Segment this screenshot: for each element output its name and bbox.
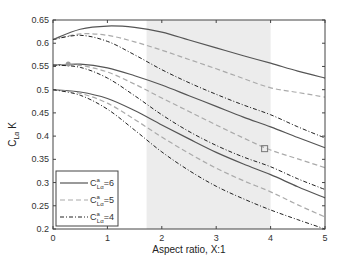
x-tick-label: 2 xyxy=(159,233,164,243)
y-axis-label: CLα K xyxy=(7,122,20,147)
x-tick-label: 0 xyxy=(50,233,55,243)
x-axis-label: Aspect ratio, X:1 xyxy=(152,244,226,255)
x-tick-label: 4 xyxy=(268,233,273,243)
y-tick-label: 0.3 xyxy=(36,178,49,188)
y-tick-label: 0.4 xyxy=(36,131,49,141)
y-tick-label: 0.55 xyxy=(31,61,49,71)
y-tick-label: 0.2 xyxy=(36,224,49,234)
y-tick-label: 0.45 xyxy=(31,108,49,118)
y-tick-label: 0.25 xyxy=(31,201,49,211)
y-tick-label: 0.65 xyxy=(31,15,49,25)
legend: CaLα=6CaLα=5CaLα=4 xyxy=(56,171,118,226)
svg-text:CLα K: CLα K xyxy=(7,122,20,147)
circle-marker xyxy=(66,62,71,67)
y-tick-label: 0.6 xyxy=(36,38,49,48)
y-tick-label: 0.5 xyxy=(36,85,49,95)
line-chart: 0123450.20.250.30.350.40.450.50.550.60.6… xyxy=(0,0,343,267)
x-tick-label: 1 xyxy=(105,233,110,243)
x-tick-label: 5 xyxy=(322,233,327,243)
y-tick-label: 0.35 xyxy=(31,154,49,164)
x-tick-label: 3 xyxy=(214,233,219,243)
